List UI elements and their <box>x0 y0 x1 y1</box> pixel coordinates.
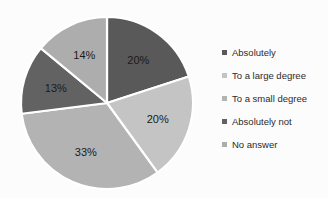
legend-swatch-icon <box>222 119 227 124</box>
pie-svg <box>0 0 210 198</box>
legend-item-label: Absolutely not <box>232 117 292 127</box>
legend-item-label: To a small degree <box>232 94 307 104</box>
legend-item-to-a-large-degree[interactable]: To a large degree <box>222 64 328 87</box>
pie-slice-value-label: 33% <box>75 146 97 158</box>
legend-swatch-icon <box>222 96 227 101</box>
legend-item-to-a-small-degree[interactable]: To a small degree <box>222 87 328 110</box>
legend-item-label: To a large degree <box>232 71 306 81</box>
pie-slice-value-label: 13% <box>45 82 67 94</box>
legend-item-absolutely[interactable]: Absolutely <box>222 41 328 64</box>
legend-item-label: No answer <box>232 140 277 150</box>
pie-slice-value-label: 14% <box>73 49 95 61</box>
legend-swatch-icon <box>222 73 227 78</box>
pie-slices-group <box>21 17 193 189</box>
legend-item-label: Absolutely <box>232 48 276 58</box>
pie-plot-area: 20%20%33%13%14% <box>0 0 210 198</box>
legend-swatch-icon <box>222 50 227 55</box>
chart-legend: Absolutely To a large degree To a small … <box>222 41 328 156</box>
legend-item-no-answer[interactable]: No answer <box>222 133 328 156</box>
legend-swatch-icon <box>222 142 227 147</box>
pie-chart-figure: 20%20%33%13%14% Absolutely To a large de… <box>0 0 328 198</box>
legend-item-absolutely-not[interactable]: Absolutely not <box>222 110 328 133</box>
pie-slice-value-label: 20% <box>147 113 169 125</box>
pie-slice-value-label: 20% <box>127 54 149 66</box>
